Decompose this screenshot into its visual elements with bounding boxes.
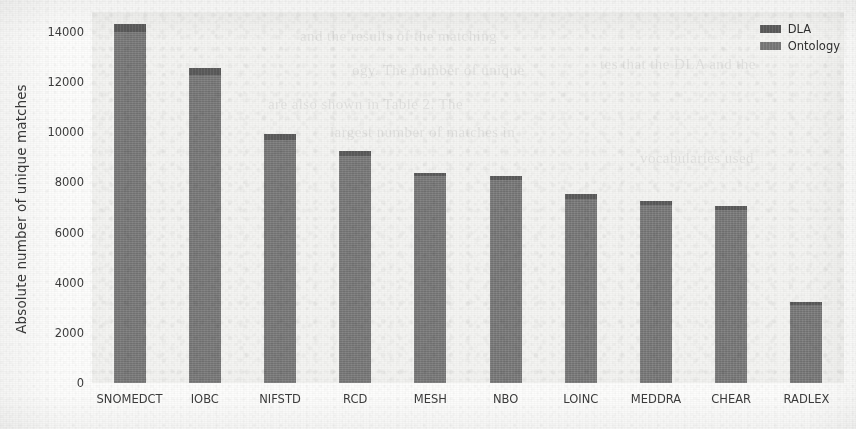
chart-figure: and the results of the matching ogy. The… [0,0,856,429]
bar-segment-dla [790,302,822,305]
bar [339,151,371,383]
legend-label-dla: DLA [788,22,811,36]
bar-segment-ontology [715,210,747,383]
y-axis-tick-label: 8000 [0,175,92,189]
bar-segment-ontology [414,176,446,383]
bar-segment-dla [490,176,522,180]
legend-item-dla: DLA [760,21,840,36]
bar-segment-dla [114,24,146,32]
bar [264,134,296,383]
bar-segment-ontology [640,205,672,383]
bar-segment-ontology [565,199,597,383]
bar [490,176,522,383]
y-axis-tick-label: 14000 [0,25,92,39]
plot-area [92,12,844,383]
legend-swatch-dla [760,25,781,33]
bar-segment-ontology [790,305,822,383]
y-axis-tick-label: 4000 [0,276,92,290]
legend-label-ontology: Ontology [788,39,840,53]
y-axis-tick-label: 0 [0,376,92,390]
legend-swatch-ontology [760,42,781,50]
bar-segment-dla [189,68,221,74]
y-axis-tick-label: 12000 [0,75,92,89]
bar-segment-dla [640,201,672,205]
legend-item-ontology: Ontology [760,38,840,53]
bar-segment-ontology [264,140,296,383]
y-axis-tick-label: 10000 [0,125,92,139]
bar-segment-dla [715,206,747,210]
bar [715,206,747,383]
x-axis-tick-label: RADLEX [746,392,856,406]
bar-segment-dla [264,134,296,140]
y-axis-tick-label: 2000 [0,326,92,340]
bar [114,24,146,383]
bar [640,201,672,383]
chart-legend: DLA Ontology [755,18,846,57]
bar-segment-ontology [114,32,146,383]
bar-segment-ontology [339,156,371,383]
y-axis-tick-label: 6000 [0,226,92,240]
bar-segment-ontology [490,180,522,383]
bar [565,194,597,383]
bar-segment-dla [414,173,446,177]
bar-segment-dla [339,151,371,157]
bar [790,302,822,383]
bar [189,68,221,383]
bar [414,173,446,383]
y-axis-label: Absolute number of unique matches [8,14,34,404]
bar-segment-dla [565,194,597,199]
bar-segment-ontology [189,75,221,383]
